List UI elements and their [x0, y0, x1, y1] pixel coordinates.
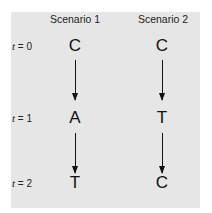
- scenario2-t0-nucleotide: C: [152, 36, 172, 56]
- arrow-down-icon: [75, 60, 76, 100]
- arrow-down-icon: [162, 60, 163, 100]
- time-label-1: t = 1: [12, 112, 32, 124]
- scenario2-t1-nucleotide: T: [152, 108, 172, 128]
- time-label-0: t = 0: [12, 40, 32, 52]
- scenario1-t0-nucleotide: C: [65, 36, 85, 56]
- scenario2-t2-nucleotide: C: [152, 173, 172, 193]
- scenario1-t2-nucleotide: T: [65, 173, 85, 193]
- arrow-down-icon: [75, 133, 76, 173]
- header-scenario-2: Scenario 2: [128, 13, 198, 25]
- scenario1-t1-nucleotide: A: [65, 108, 85, 128]
- time-label-2: t = 2: [12, 177, 32, 189]
- header-scenario-1: Scenario 1: [40, 13, 110, 25]
- arrow-down-icon: [162, 133, 163, 173]
